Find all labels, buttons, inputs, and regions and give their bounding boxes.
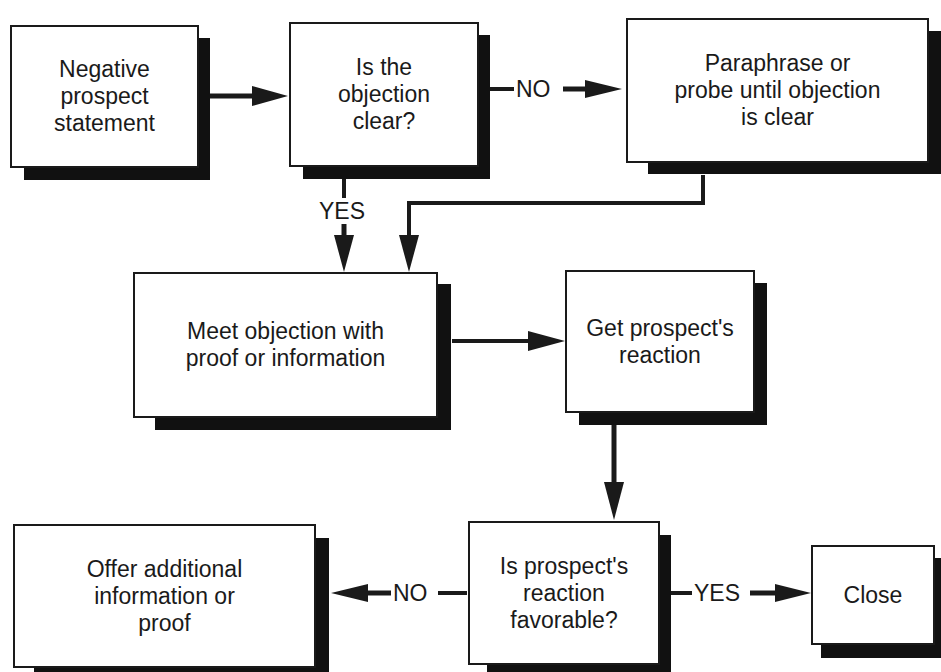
arrow-reaction-to-favorable (604, 425, 624, 520)
node-label: Is the objection clear? (338, 54, 430, 135)
node-label: Meet objection with proof or information (186, 318, 385, 372)
node-label: Paraphrase or probe until objection is c… (675, 50, 881, 131)
node-objection-clear: Is the objection clear? (289, 22, 479, 167)
node-label: Offer additional information or proof (87, 556, 243, 637)
node-offer-info: Offer additional information or proof (13, 524, 316, 668)
node-reaction-favorable: Is prospect's reaction favorable? (468, 521, 660, 665)
node-paraphrase: Paraphrase or probe until objection is c… (626, 18, 929, 163)
arrow-negative-to-clear (210, 86, 288, 106)
arrow-meet-to-reaction (452, 331, 565, 351)
arrow-paraphrase-to-meet (399, 175, 703, 272)
edge-label-favorable-no: NO (391, 580, 430, 606)
node-negative-statement: Negative prospect statement (10, 25, 199, 168)
node-label: Close (844, 582, 903, 609)
node-label: Negative prospect statement (54, 56, 155, 137)
node-close: Close (811, 545, 935, 645)
node-get-reaction: Get prospect's reaction (565, 270, 755, 413)
edge-label-favorable-yes: YES (692, 580, 742, 606)
arrow-clear-no-to-paraphrase (490, 80, 622, 98)
edge-label-clear-no: NO (514, 76, 553, 102)
node-label: Get prospect's reaction (586, 315, 734, 369)
node-label: Is prospect's reaction favorable? (500, 553, 628, 634)
node-meet-objection: Meet objection with proof or information (133, 272, 438, 418)
flowchart-canvas: Negative prospect statement Is the objec… (0, 0, 941, 672)
edge-label-clear-yes: YES (317, 198, 367, 224)
arrow-clear-yes-to-meet (334, 178, 354, 272)
